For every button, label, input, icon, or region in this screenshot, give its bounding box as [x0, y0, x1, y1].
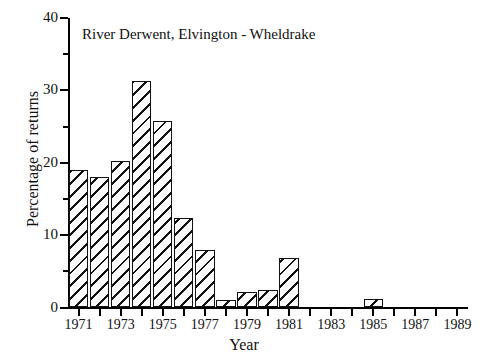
- x-tick-label: 1989: [432, 317, 482, 333]
- y-tick-major: [60, 17, 68, 19]
- x-tick: [309, 309, 311, 316]
- y-tick-minor: [63, 53, 68, 55]
- x-tick: [120, 309, 122, 316]
- y-tick-label: 10: [0, 226, 58, 243]
- x-tick: [330, 309, 332, 316]
- x-tick: [267, 309, 269, 316]
- chart-title: River Derwent, Elvington - Wheldrake: [82, 26, 315, 43]
- y-tick-major: [60, 307, 68, 309]
- bar: [364, 299, 383, 308]
- y-tick-label: 30: [0, 81, 58, 98]
- x-tick: [246, 309, 248, 316]
- bar: [195, 250, 214, 308]
- x-tick: [393, 309, 395, 316]
- y-tick-label: 40: [0, 9, 58, 26]
- bar: [90, 177, 109, 307]
- x-tick: [141, 309, 143, 316]
- y-tick-major: [60, 89, 68, 91]
- y-tick-major: [60, 162, 68, 164]
- x-tick: [183, 309, 185, 316]
- bar: [69, 170, 88, 308]
- x-tick: [225, 309, 227, 316]
- bar: [111, 161, 130, 307]
- x-tick: [414, 309, 416, 316]
- x-tick: [78, 309, 80, 316]
- x-tick: [288, 309, 290, 316]
- x-tick: [162, 309, 164, 316]
- bar: [258, 290, 277, 307]
- bar: [279, 258, 298, 307]
- bar: [174, 218, 193, 308]
- y-tick-minor: [63, 270, 68, 272]
- bar: [153, 121, 172, 308]
- bar: [132, 81, 151, 308]
- y-tick-minor: [63, 198, 68, 200]
- x-tick: [351, 309, 353, 316]
- x-axis-title: Year: [0, 336, 488, 354]
- y-tick-major: [60, 234, 68, 236]
- bar: [237, 292, 256, 308]
- plot-area: River Derwent, Elvington - Wheldrake Yea…: [0, 0, 488, 358]
- x-tick: [456, 309, 458, 316]
- y-tick-minor: [63, 126, 68, 128]
- x-tick: [204, 309, 206, 316]
- x-tick: [435, 309, 437, 316]
- chart-figure: River Derwent, Elvington - Wheldrake Yea…: [0, 0, 488, 358]
- x-tick: [99, 309, 101, 316]
- y-tick-label: 20: [0, 154, 58, 171]
- y-tick-label: 0: [0, 299, 58, 316]
- x-tick: [372, 309, 374, 316]
- bar: [216, 300, 235, 308]
